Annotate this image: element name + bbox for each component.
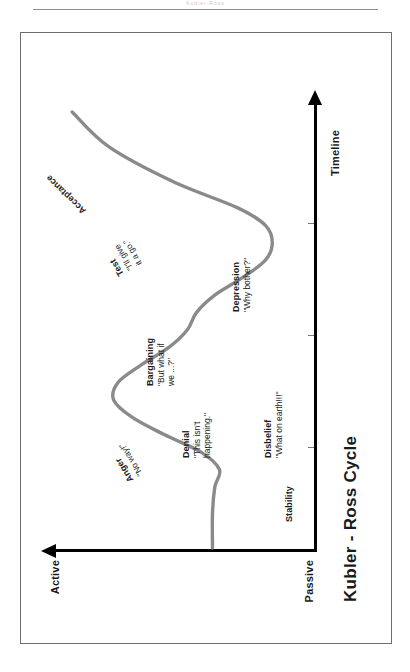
annotation-depression-label: Depression: [231, 258, 242, 312]
annotation-denial-quote-line1: "This isn't: [192, 413, 202, 458]
page-header-text: Kubler-Ross: [33, 0, 378, 8]
annotation-bargaining: Bargaining "But what if we ...?": [145, 338, 177, 386]
annotation-depression-quote: "Why bother?": [242, 258, 252, 312]
change-curve: [41, 68, 371, 608]
annotation-stability: Stability: [284, 486, 295, 522]
chart-title: Kubler - Ross Cycle: [341, 82, 361, 602]
page-header-divider: [33, 9, 378, 10]
annotation-disbelief: Disbelief "What on earth!!!": [263, 391, 284, 458]
chart-rotor: Active Passive Timeline Stability Disbel…: [41, 68, 371, 608]
slide-frame: Active Passive Timeline Stability Disbel…: [20, 32, 392, 644]
annotation-disbelief-quote: "What on earth!!!": [274, 391, 284, 458]
annotation-stability-label: Stability: [284, 486, 295, 522]
annotation-denial-label: Denial: [181, 413, 192, 458]
annotation-denial-quote-line2: happening.": [202, 413, 212, 458]
annotation-bargaining-label: Bargaining: [145, 338, 156, 386]
annotation-depression: Depression "Why bother?": [231, 258, 252, 312]
annotation-bargaining-quote-line1: "But what if: [156, 338, 166, 386]
annotation-denial: Denial "This isn't happening.": [181, 413, 213, 458]
kubler-ross-chart: Active Passive Timeline Stability Disbel…: [41, 68, 371, 608]
annotation-disbelief-label: Disbelief: [263, 391, 274, 458]
annotation-bargaining-quote-line2: we ...?": [166, 338, 176, 386]
